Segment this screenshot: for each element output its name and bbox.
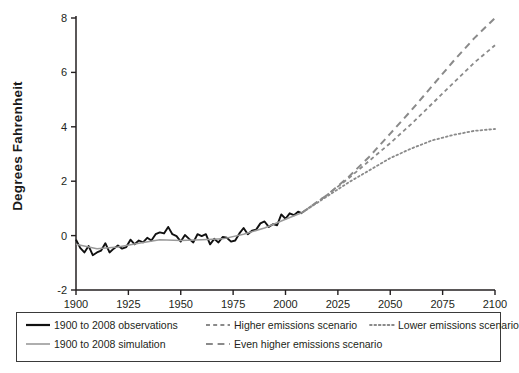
legend-item: 1900 to 2008 observations [25, 319, 178, 331]
legend-line-swatch [369, 319, 395, 331]
series-line [302, 45, 495, 212]
x-tick-label: 2000 [273, 298, 297, 310]
y-tick-label: 0 [61, 230, 67, 242]
series-line [76, 212, 302, 256]
x-tick-label: 1950 [169, 298, 193, 310]
x-tick-label: 2050 [378, 298, 402, 310]
x-tick-label: 2075 [430, 298, 454, 310]
legend-line-swatch [25, 319, 51, 331]
legend-line-swatch [25, 338, 51, 350]
y-tick-label: 4 [61, 121, 67, 133]
x-tick-label: 1975 [221, 298, 245, 310]
series-line [302, 18, 495, 212]
y-tick-label: 8 [61, 12, 67, 24]
chart-legend: 1900 to 2008 observations1900 to 2008 si… [16, 312, 501, 362]
x-tick-label: 2025 [326, 298, 350, 310]
legend-item: Even higher emissions scenario [205, 338, 382, 350]
y-tick-label: -2 [57, 284, 67, 296]
y-axis-title: Degrees Fahrenheit [10, 81, 25, 211]
legend-item: Lower emissions scenario [369, 319, 519, 331]
x-tick-label: 1925 [116, 298, 140, 310]
series-line [302, 129, 495, 213]
legend-item: Higher emissions scenario [205, 319, 357, 331]
legend-line-swatch [205, 338, 231, 350]
series-line [76, 212, 302, 248]
y-tick-label: 2 [61, 175, 67, 187]
legend-item: 1900 to 2008 simulation [25, 338, 166, 350]
y-tick-label: 6 [61, 66, 67, 78]
legend-label: 1900 to 2008 observations [54, 319, 178, 331]
legend-line-swatch [205, 319, 231, 331]
legend-label: Lower emissions scenario [398, 319, 519, 331]
legend-label: Even higher emissions scenario [234, 338, 382, 350]
x-tick-label: 1900 [64, 298, 88, 310]
x-tick-label: 2100 [483, 298, 507, 310]
legend-label: 1900 to 2008 simulation [54, 338, 166, 350]
legend-label: Higher emissions scenario [234, 319, 357, 331]
